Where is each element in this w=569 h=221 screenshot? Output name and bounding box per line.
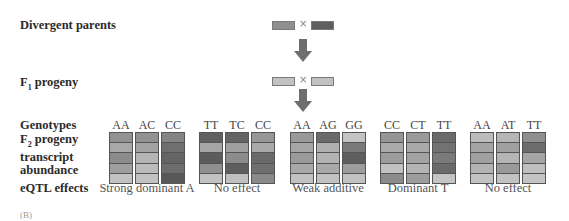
genotype-block (199, 132, 275, 184)
label-eqtl-effects: eQTL effects (20, 181, 88, 196)
abundance-cell (291, 143, 313, 152)
genotype-block (470, 132, 546, 184)
abundance-cell (433, 143, 455, 152)
genotype-label: AG (315, 118, 341, 133)
abundance-cell (162, 153, 184, 162)
abundance-cell (252, 143, 274, 152)
label-divergent-parents: Divergent parents (20, 18, 116, 33)
genotype-column (342, 132, 366, 184)
abundance-cell (200, 133, 222, 142)
f1-rest: progeny (32, 75, 79, 89)
genotype-label: AC (134, 118, 160, 133)
abundance-cell (343, 133, 365, 142)
genotype-column (496, 132, 520, 184)
abundance-cell (433, 164, 455, 173)
abundance-cell (162, 164, 184, 173)
label-f2-transcript-abundance: F2 progeny transcript abundance (20, 133, 78, 176)
genotype-block (290, 132, 366, 184)
genotype-column (109, 132, 133, 184)
genotype-column (290, 132, 314, 184)
genotype-label: AA (289, 118, 315, 133)
abundance-cell (523, 133, 545, 142)
abundance-cell (497, 143, 519, 152)
abundance-cell (381, 133, 403, 142)
genotype-block (109, 132, 185, 184)
genotype-column (406, 132, 430, 184)
abundance-cell (471, 143, 493, 152)
abundance-cell (497, 133, 519, 142)
f1-left-box (272, 77, 295, 86)
abundance-cell (471, 164, 493, 173)
genotype-label: TC (224, 118, 250, 133)
f1-right-box (311, 77, 334, 86)
abundance-cell (381, 153, 403, 162)
genotype-label: TT (521, 118, 547, 133)
abundance-cell (252, 164, 274, 173)
genotype-column (135, 132, 159, 184)
abundance-cell (110, 153, 132, 162)
down-arrow-icon (293, 89, 313, 113)
abundance-cell (343, 164, 365, 173)
f2-line3: abundance (20, 164, 78, 177)
abundance-cell (110, 133, 132, 142)
label-genotypes: Genotypes (20, 118, 76, 133)
genotype-label: CC (250, 118, 276, 133)
abundance-cell (162, 133, 184, 142)
abundance-cell (407, 153, 429, 162)
abundance-cell (381, 164, 403, 173)
abundance-cell (226, 133, 248, 142)
abundance-cell (200, 153, 222, 162)
abundance-cell (136, 143, 158, 152)
abundance-cell (110, 164, 132, 173)
cross-symbol-parents: × (299, 18, 307, 29)
panel-label: (B) (20, 210, 32, 220)
genotype-label: AA (108, 118, 134, 133)
abundance-cell (226, 164, 248, 173)
genotype-label: TT (431, 118, 457, 133)
abundance-cell (433, 153, 455, 162)
abundance-cell (381, 143, 403, 152)
f2-line2: transcript (20, 151, 78, 164)
genotype-label: AA (469, 118, 495, 133)
abundance-cell (343, 153, 365, 162)
abundance-cell (407, 143, 429, 152)
eqtl-effect-label: No effect (448, 181, 568, 196)
genotype-label: CC (160, 118, 186, 133)
abundance-cell (291, 133, 313, 142)
abundance-cell (497, 164, 519, 173)
abundance-cell (317, 133, 339, 142)
abundance-cell (523, 143, 545, 152)
genotype-label: CC (379, 118, 405, 133)
genotype-label: TT (198, 118, 224, 133)
genotype-column (225, 132, 249, 184)
abundance-cell (136, 153, 158, 162)
genotype-label: AT (495, 118, 521, 133)
abundance-cell (433, 133, 455, 142)
genotype-column (161, 132, 185, 184)
abundance-cell (407, 164, 429, 173)
genotype-column (380, 132, 404, 184)
genotype-column (522, 132, 546, 184)
abundance-cell (291, 153, 313, 162)
abundance-cell (162, 143, 184, 152)
f2-line1: F2 progeny (20, 133, 78, 151)
genotype-column (251, 132, 275, 184)
parent-left-box (272, 21, 295, 30)
abundance-cell (200, 164, 222, 173)
genotype-column (316, 132, 340, 184)
label-f1-progeny: F1 progeny (20, 75, 78, 92)
down-arrow-icon (293, 39, 313, 63)
abundance-cell (471, 153, 493, 162)
abundance-cell (317, 164, 339, 173)
abundance-cell (226, 153, 248, 162)
genotype-column (432, 132, 456, 184)
abundance-cell (317, 143, 339, 152)
cross-symbol-f1: × (299, 74, 307, 85)
abundance-cell (471, 133, 493, 142)
genotype-label: GG (341, 118, 367, 133)
f1-letter: F (20, 75, 28, 89)
abundance-cell (523, 164, 545, 173)
abundance-cell (523, 153, 545, 162)
abundance-cell (407, 133, 429, 142)
abundance-cell (226, 143, 248, 152)
